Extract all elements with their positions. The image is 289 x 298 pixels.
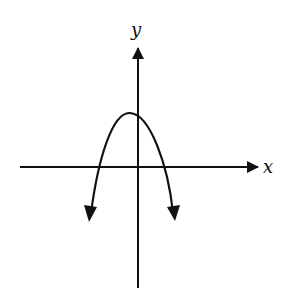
x-axis-label: x	[263, 156, 273, 177]
parabola-curve	[91, 113, 173, 213]
y-axis-label: y	[130, 19, 142, 40]
left-arrowhead	[84, 205, 97, 222]
right-arrowhead	[167, 205, 180, 221]
parabola-graph: x y	[0, 0, 289, 298]
